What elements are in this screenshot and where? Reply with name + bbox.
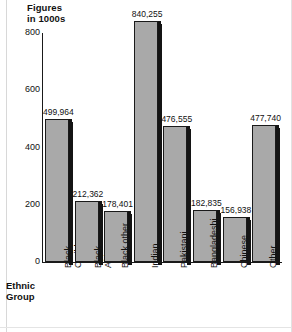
bar bbox=[252, 125, 276, 262]
x-category-label: Black other bbox=[120, 223, 130, 268]
x-category-label: Indian bbox=[150, 243, 160, 268]
bar-value-label: 840,255 bbox=[132, 10, 163, 19]
bar-value-label: 156,938 bbox=[221, 206, 252, 215]
bar-chart: Figures in 1000s 0200400600800 499,964Bl… bbox=[0, 0, 292, 332]
bar-value-label: 212,362 bbox=[73, 190, 104, 199]
x-axis-title: Ethnic Group bbox=[6, 281, 35, 302]
x-category-label: Pakistani bbox=[179, 231, 189, 268]
x-category-label: Chinese bbox=[239, 235, 249, 268]
bar bbox=[134, 21, 158, 262]
bar-value-label: 499,964 bbox=[43, 108, 74, 117]
bar-value-label: 182,835 bbox=[191, 199, 222, 208]
bar-group bbox=[134, 21, 162, 262]
bar-shadow bbox=[276, 128, 280, 265]
x-category-label: Other bbox=[268, 245, 278, 268]
x-category-label: Bangladeshi bbox=[209, 218, 219, 268]
bar-value-label: 476,555 bbox=[161, 115, 192, 124]
bar-group bbox=[252, 125, 280, 262]
bar-value-label: 178,401 bbox=[102, 200, 133, 209]
bars-layer: 499,964Black Caribbean212,362Black Afric… bbox=[0, 0, 292, 332]
bar-shadow bbox=[158, 24, 162, 265]
bar-value-label: 477,740 bbox=[250, 114, 281, 123]
